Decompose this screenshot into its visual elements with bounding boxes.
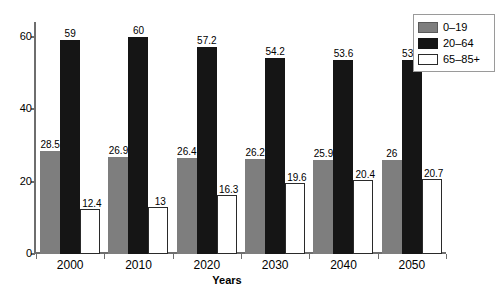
- legend-item-20-64: 20–64: [418, 35, 490, 51]
- bar-2030-65-85+: 19.6: [285, 183, 305, 254]
- bar-value-label: 13: [155, 197, 166, 207]
- bar-value-label: 53.6: [334, 49, 353, 59]
- bar-2040-65-85+: 20.4: [353, 180, 373, 254]
- legend-swatch-icon-20-64: [418, 38, 438, 49]
- bar-2010-65-85+: 13: [148, 207, 168, 254]
- x-tick-label-2010: 2010: [104, 258, 172, 272]
- bar-value-label: 16.3: [219, 185, 238, 195]
- x-tick-label-2000: 2000: [36, 258, 104, 272]
- bar-2000-20-64: 59: [60, 40, 80, 254]
- x-tick-label-2030: 2030: [241, 258, 309, 272]
- bar-value-label: 12.4: [82, 199, 101, 209]
- x-tick-label-2050: 2050: [378, 258, 446, 272]
- bar-group-2010: 26.96013: [104, 0, 172, 254]
- bar-2000-65-85+: 12.4: [80, 209, 100, 254]
- bar-2030-0-19: 26.2: [245, 159, 265, 254]
- bar-2020-0-19: 26.4: [177, 158, 197, 254]
- bar-2040-20-64: 53.6: [333, 60, 353, 254]
- bar-group-2040: 25.953.620.4: [309, 0, 377, 254]
- bar-2050-65-85+: 20.7: [422, 179, 442, 254]
- bar-value-label: 57.2: [197, 36, 216, 46]
- bar-value-label: 28.5: [40, 140, 59, 150]
- bar-value-label: 26: [386, 149, 397, 159]
- bar-chart: 0204060 28.55912.4200026.96013201026.457…: [0, 0, 502, 295]
- bar-group-2000: 28.55912.4: [36, 0, 104, 254]
- x-axis-title: Years: [0, 274, 502, 286]
- bar-value-label: 26.2: [245, 148, 264, 158]
- bar-2000-0-19: 28.5: [40, 151, 60, 254]
- bar-value-label: 59: [65, 29, 76, 39]
- x-tick-label-2020: 2020: [173, 258, 241, 272]
- legend-label-0-19: 0–19: [443, 21, 467, 33]
- bar-value-label: 26.4: [177, 147, 196, 157]
- legend-item-65-85plus: 65–85+: [418, 51, 490, 67]
- bar-value-label: 25.9: [314, 149, 333, 159]
- bar-2010-20-64: 60: [128, 37, 148, 255]
- bar-2030-20-64: 54.2: [265, 58, 285, 254]
- y-tick-label: 20: [4, 176, 32, 187]
- x-tick-label-2040: 2040: [309, 258, 377, 272]
- bar-2010-0-19: 26.9: [108, 157, 128, 255]
- bar-value-label: 54.2: [265, 47, 284, 57]
- bar-value-label: 19.6: [287, 173, 306, 183]
- y-axis-ticks: 0204060: [0, 0, 32, 295]
- x-tick-mark: [446, 254, 447, 259]
- bar-2020-20-64: 57.2: [197, 47, 217, 254]
- bar-group-2020: 26.457.216.3: [173, 0, 241, 254]
- legend-swatch-icon-65-85plus: [418, 54, 438, 65]
- bar-value-label: 60: [133, 26, 144, 36]
- bar-value-label: 20.4: [356, 170, 375, 180]
- legend-item-0-19: 0–19: [418, 19, 490, 35]
- bar-2040-0-19: 25.9: [313, 160, 333, 254]
- bar-value-label: 26.9: [109, 146, 128, 156]
- y-tick-label: 40: [4, 103, 32, 114]
- chart-legend: 0–19 20–64 65–85+: [413, 14, 495, 72]
- bar-2050-0-19: 26: [382, 160, 402, 254]
- bar-group-2030: 26.254.219.6: [241, 0, 309, 254]
- legend-label-20-64: 20–64: [443, 37, 474, 49]
- legend-label-65-85plus: 65–85+: [443, 53, 480, 65]
- bar-value-label: 20.7: [424, 169, 443, 179]
- bar-2050-20-64: 53.4: [402, 60, 422, 254]
- bar-groups: 28.55912.4200026.96013201026.457.216.320…: [36, 0, 446, 254]
- legend-swatch-icon-0-19: [418, 22, 438, 33]
- bar-2020-65-85+: 16.3: [217, 195, 237, 254]
- y-tick-label: 0: [4, 248, 32, 259]
- y-tick-label: 60: [4, 31, 32, 42]
